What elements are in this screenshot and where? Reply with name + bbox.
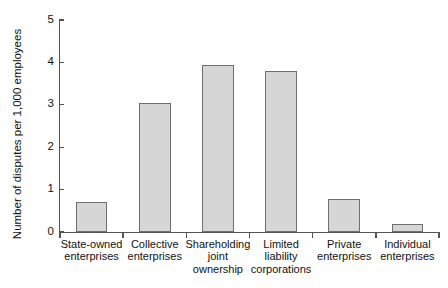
y-tick-label-wrap: 4 (40, 56, 54, 68)
category-label-line: State-owned (56, 238, 127, 250)
category-label-2: Shareholdingjointownership (182, 238, 253, 275)
bar-3 (265, 71, 297, 232)
category-label-line: ownership (182, 263, 253, 275)
category-label-line: Limited (246, 238, 317, 250)
category-label-3: Limitedliabilitycorporations (246, 238, 317, 275)
category-label-line: corporations (246, 263, 317, 275)
category-label-1: Collectiveenterprises (119, 238, 190, 263)
category-label-line: enterprises (372, 250, 443, 262)
category-label-line: joint (182, 250, 253, 262)
y-tick-label-wrap: 0 (40, 226, 54, 238)
y-tick-label: 3 (40, 98, 54, 110)
y-tick-label-wrap: 1 (40, 183, 54, 195)
bar-2 (202, 65, 234, 232)
category-label-4: Privateenterprises (309, 238, 380, 263)
category-label-line: enterprises (309, 250, 380, 262)
y-tick-label-wrap: 2 (40, 141, 54, 153)
plot-area (60, 20, 439, 232)
category-label-line: enterprises (56, 250, 127, 262)
category-label-line: Shareholding (182, 238, 253, 250)
y-tick-label: 4 (40, 56, 54, 68)
bar-chart: Number of disputes per 1,000 employees 0… (0, 0, 448, 288)
y-tick-label: 2 (40, 141, 54, 153)
bar-4 (328, 199, 360, 232)
category-label-line: liability (246, 250, 317, 262)
y-tick-label: 5 (40, 14, 54, 26)
category-label-line: enterprises (119, 250, 190, 262)
y-tick-label: 0 (40, 226, 54, 238)
category-label-line: Collective (119, 238, 190, 250)
bar-0 (76, 202, 108, 232)
y-tick-label: 1 (40, 183, 54, 195)
y-tick-label-wrap: 5 (40, 14, 54, 26)
y-tick-label-wrap: 3 (40, 98, 54, 110)
category-label-5: Individualenterprises (372, 238, 443, 263)
category-label-line: Individual (372, 238, 443, 250)
category-label-line: Private (309, 238, 380, 250)
y-axis-title: Number of disputes per 1,000 employees (11, 24, 23, 244)
category-label-0: State-ownedenterprises (56, 238, 127, 263)
bar-5 (392, 224, 424, 232)
bar-1 (139, 103, 171, 232)
